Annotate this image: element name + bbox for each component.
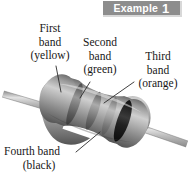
label-second-band-line1: Second (71, 36, 129, 50)
label-fourth-band-line2: (black) (4, 159, 92, 173)
label-fourth-band: Fourth band (black) (4, 145, 92, 172)
figure-container: Example 1 (0, 0, 189, 181)
label-third-band-line2: band (129, 64, 187, 78)
label-third-band-line1: Third (129, 50, 187, 64)
label-fourth-band-line1: Fourth band (4, 145, 92, 159)
label-second-band-line3: (green) (71, 63, 129, 77)
label-third-band: Third band (orange) (129, 50, 187, 91)
label-second-band: Second band (green) (71, 36, 129, 77)
label-first-band-line1: First (21, 22, 79, 36)
label-second-band-line2: band (71, 50, 129, 64)
label-third-band-line3: (orange) (129, 77, 187, 91)
